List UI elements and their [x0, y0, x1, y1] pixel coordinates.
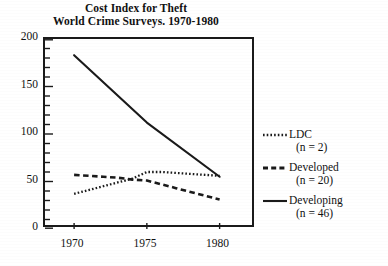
- legend-entry-ldc: LDC (n = 2): [262, 128, 386, 154]
- legend-sublabel-developing: (n = 46): [262, 207, 386, 220]
- legend-sublabel-developed: (n = 20): [262, 174, 386, 187]
- chart-figure: Cost Index for Theft World Crime Surveys…: [0, 0, 388, 266]
- dotted-line-icon: [262, 128, 288, 141]
- dashed-line-icon: [262, 161, 288, 174]
- legend-label-ldc: LDC: [288, 128, 312, 141]
- x-tick-label-1970: 1970: [49, 238, 95, 250]
- legend-label-developing: Developing: [288, 194, 343, 207]
- legend-entry-developing: Developing (n = 46): [262, 194, 386, 220]
- legend-label-developed: Developed: [288, 161, 339, 174]
- chart-legend: LDC (n = 2) Developed (n = 20): [262, 128, 386, 227]
- solid-line-icon: [262, 194, 288, 207]
- x-tick-label-1980: 1980: [195, 238, 241, 250]
- legend-sublabel-ldc: (n = 2): [262, 141, 386, 154]
- x-tick-label-1975: 1975: [122, 238, 168, 250]
- legend-entry-developed: Developed (n = 20): [262, 161, 386, 187]
